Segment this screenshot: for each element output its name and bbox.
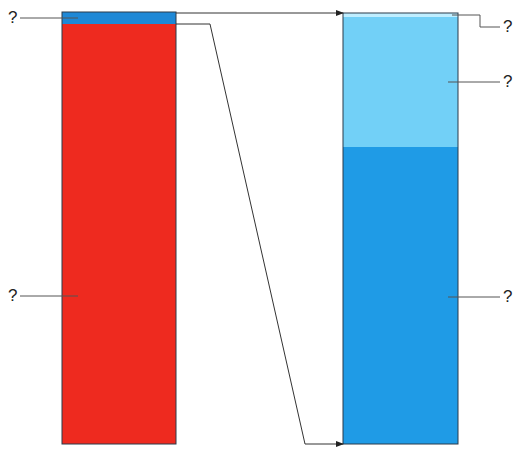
right-lower-segment	[343, 147, 458, 444]
left-main-segment	[62, 24, 176, 444]
label-left-bottom: ?	[8, 287, 17, 304]
left-top-segment	[62, 12, 176, 24]
right-top-sliver-segment	[343, 13, 458, 17]
right-bar	[343, 13, 458, 444]
label-right-top: ?	[503, 18, 512, 35]
diagonal-connector-arrow	[176, 24, 343, 444]
left-bar	[62, 12, 176, 444]
label-right-middle: ?	[503, 73, 512, 90]
diagram-canvas	[0, 0, 515, 459]
label-left-top: ?	[8, 9, 17, 26]
label-right-bottom: ?	[503, 288, 512, 305]
leader-right-top	[452, 15, 500, 27]
right-upper-segment	[343, 17, 458, 147]
